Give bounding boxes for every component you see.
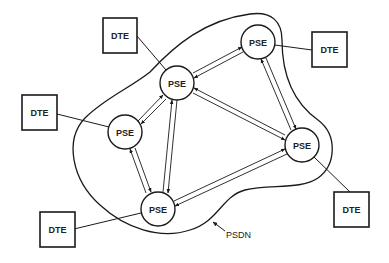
dte-box-top-left: DTE xyxy=(103,18,137,53)
dte-box-left: DTE xyxy=(22,95,57,130)
link-ct-b-a xyxy=(163,100,172,192)
psdn-label: PSDN xyxy=(226,230,251,240)
link-ct-b-b xyxy=(168,100,177,193)
link-tr-r-a xyxy=(261,59,291,130)
pse-node-right: PSE xyxy=(285,128,319,162)
link-dte-bottom-right xyxy=(314,157,350,192)
dte-box-bottom-left: DTE xyxy=(40,212,75,247)
link-ct-r-b xyxy=(193,93,285,140)
link-dte-bottom-left xyxy=(74,213,141,229)
pse-node-top-right: PSE xyxy=(241,25,275,59)
link-ct-l-b xyxy=(141,99,166,124)
link-b-r-a xyxy=(174,149,285,201)
dte-label: DTE xyxy=(111,31,129,41)
link-tr-r-b xyxy=(266,58,296,129)
link-ct-tr-b xyxy=(194,52,243,78)
pse-label: PSE xyxy=(149,205,167,215)
psdn-pointer-arrow xyxy=(213,222,225,231)
dte-box-top-right: DTE xyxy=(312,32,347,67)
pse-links xyxy=(130,47,296,206)
pse-label: PSE xyxy=(293,141,311,151)
dte-box-bottom-right: DTE xyxy=(334,192,369,227)
pse-label: PSE xyxy=(116,128,134,138)
link-dte-top-right xyxy=(275,45,312,50)
link-ct-l-a xyxy=(138,95,163,121)
link-dte-top-left xyxy=(137,36,166,70)
pse-label: PSE xyxy=(249,38,267,48)
dte-label: DTE xyxy=(31,108,49,118)
link-ct-r-a xyxy=(194,88,285,135)
pse-node-bottom: PSE xyxy=(141,192,175,226)
pse-node-left: PSE xyxy=(108,115,142,149)
link-dte-left xyxy=(57,114,109,127)
dte-label: DTE xyxy=(49,225,67,235)
dte-label: DTE xyxy=(321,45,339,55)
psdn-network-diagram: PSE PSE PSE PSE PSE DTE DTE DTE DTE DTE … xyxy=(0,0,389,263)
pse-node-center-top: PSE xyxy=(160,66,194,100)
link-ct-tr-a xyxy=(193,47,242,73)
dte-label: DTE xyxy=(343,205,361,215)
pse-label: PSE xyxy=(168,79,186,89)
